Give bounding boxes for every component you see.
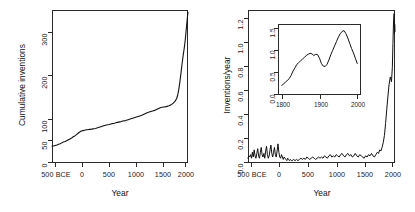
inset-xtick-label-1800: 1800 xyxy=(271,101,295,108)
ytick-label-rate-02: 0.2 xyxy=(236,140,245,160)
xtick-mark xyxy=(109,163,110,167)
xtick-mark xyxy=(308,163,309,167)
ytick-mark xyxy=(48,162,52,163)
xtick-mark xyxy=(251,163,252,167)
xtick-mark xyxy=(136,163,137,167)
panel-rate: 0.0 0.5 1.0 1.5 1800 1900 2000 0.0 0.2 0… xyxy=(207,0,414,212)
xtick-label-rate-2000: 2000 xyxy=(379,170,407,179)
xtick-label-cumulative-500: 500 xyxy=(97,170,121,179)
inset-ytick-label-15: 1.5 xyxy=(269,29,276,47)
ytick-label-rate-12: 1.2 xyxy=(236,20,245,40)
ytick-label-cumulative-100: 100 xyxy=(40,121,49,141)
ytick-mark xyxy=(48,119,52,120)
ytick-mark xyxy=(244,42,248,43)
xtick-label-rate-1000: 1000 xyxy=(323,170,351,179)
inset-xtick-label-2000: 2000 xyxy=(346,101,370,108)
yaxis-title-rate: Inventions/year xyxy=(222,15,232,155)
ytick-mark xyxy=(48,32,52,33)
ytick-label-cumulative-200: 200 xyxy=(40,77,49,97)
ytick-mark xyxy=(48,140,52,141)
ytick-label-rate-04: 0.4 xyxy=(236,116,245,136)
inset-xtick-mark xyxy=(282,95,283,99)
xtick-label-rate-0: 0 xyxy=(269,170,289,179)
ytick-mark xyxy=(244,138,248,139)
inset-ytick-label-10: 1.0 xyxy=(269,51,276,69)
line-cumulative-inventions xyxy=(52,10,188,163)
xtick-mark xyxy=(279,163,280,167)
ytick-label-cumulative-50: 50 xyxy=(40,142,49,162)
yaxis-title-cumulative: Cumulative inventions xyxy=(17,15,27,155)
xaxis-title-cumulative: Year xyxy=(80,188,160,198)
ytick-label-rate-06: 0.6 xyxy=(236,92,245,112)
ytick-mark xyxy=(244,162,248,163)
xtick-label-cumulative-1000: 1000 xyxy=(122,170,150,179)
inset-xtick-mark xyxy=(357,95,358,99)
ytick-label-rate-10: 1.0 xyxy=(236,44,245,64)
ytick-mark xyxy=(244,18,248,19)
xtick-mark xyxy=(185,163,186,167)
ytick-mark xyxy=(244,90,248,91)
xtick-mark xyxy=(163,163,164,167)
xtick-label-cumulative-0: 0 xyxy=(72,170,92,179)
ytick-mark xyxy=(244,114,248,115)
ytick-mark xyxy=(48,75,52,76)
xtick-label-rate-500: 500 xyxy=(296,170,320,179)
ytick-label-cumulative-300: 300 xyxy=(40,34,49,54)
inset-xtick-mark xyxy=(320,95,321,99)
panel-cumulative: 0 50 100 200 300 500 BCE 0 500 1000 1500… xyxy=(0,0,207,212)
xtick-mark xyxy=(392,163,393,167)
xtick-mark xyxy=(365,163,366,167)
inventions-figure: 0 50 100 200 300 500 BCE 0 500 1000 1500… xyxy=(0,0,415,212)
xaxis-title-rate: Year xyxy=(282,188,362,198)
ytick-mark xyxy=(244,66,248,67)
inset-xtick-label-1900: 1900 xyxy=(309,101,333,108)
xtick-mark xyxy=(337,163,338,167)
inset-ytick-label-05: 0.5 xyxy=(269,73,276,91)
xtick-mark xyxy=(55,163,56,167)
line-inset-inventions-per-year xyxy=(278,24,361,95)
xtick-label-cumulative-2000: 2000 xyxy=(172,170,200,179)
xtick-label-rate-1500: 1500 xyxy=(351,170,379,179)
xtick-mark xyxy=(82,163,83,167)
ytick-label-rate-08: 0.8 xyxy=(236,68,245,88)
